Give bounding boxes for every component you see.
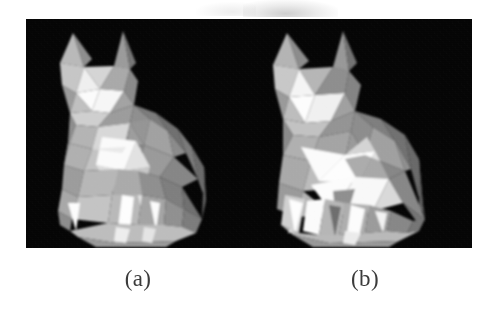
caption-row: (a) (b): [26, 262, 472, 308]
panel-a-render: [26, 19, 249, 248]
figure-root: (a) (b): [0, 0, 499, 328]
scan-artifact-smudge: [243, 0, 338, 17]
panel-b-render: [249, 19, 472, 248]
cat-model-a-svg: [26, 19, 249, 248]
cat-model-b-svg: [249, 19, 472, 248]
caption-label-a: (a): [73, 262, 203, 296]
caption-label-b: (b): [300, 262, 430, 296]
scan-artifact-smudge-secondary: [196, 2, 256, 16]
render-plate: [26, 19, 472, 248]
